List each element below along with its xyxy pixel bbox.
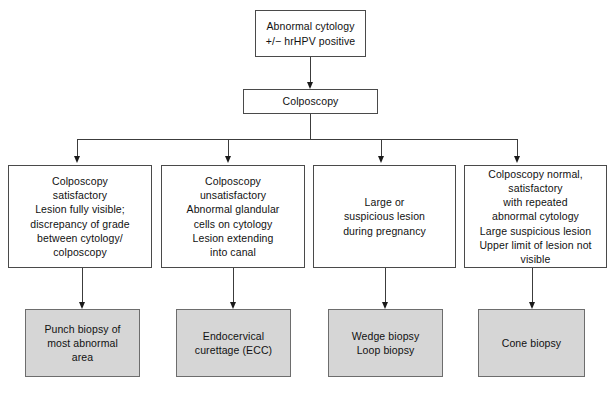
node-colposcopy-satisfactory-label: Colposcopy satisfactory Lesion fully vis…: [9, 174, 151, 259]
arrowhead-to-procedure-1: [79, 302, 85, 309]
flowchart-diagram: Abnormal cytology +/− hrHPV positive Col…: [0, 0, 610, 393]
connector-finding-4-to-procedure-4: [532, 268, 533, 304]
arrowhead-to-finding-2: [225, 156, 231, 163]
arrowhead-to-procedure-3: [382, 302, 388, 309]
node-large-suspicious-pregnancy: Large or suspicious lesion during pregna…: [313, 165, 456, 268]
connector-finding-2-to-procedure-2: [233, 268, 234, 304]
arrowhead-to-procedure-2: [230, 302, 236, 309]
arrowhead-to-finding-4: [514, 156, 520, 163]
node-colposcopy-normal-repeated-label: Colposcopy normal, satisfactory with rep…: [465, 167, 606, 266]
arrowhead-to-colposcopy: [307, 82, 313, 89]
connector-branch-bus: [77, 139, 517, 140]
node-colposcopy: Colposcopy: [243, 89, 378, 114]
node-colposcopy-unsatisfactory-label: Colposcopy unsatisfactory Abnormal gland…: [162, 174, 304, 259]
connector-finding-1-to-procedure-1: [82, 268, 83, 304]
node-cone-biopsy-label: Cone biopsy: [479, 336, 584, 350]
connector-start-to-colposcopy: [310, 57, 311, 84]
node-endocervical-curettage-label: Endocervical curettage (ECC): [177, 329, 290, 357]
node-cone-biopsy: Cone biopsy: [478, 309, 585, 377]
node-wedge-loop-biopsy: Wedge biopsy Loop biopsy: [328, 309, 443, 377]
node-colposcopy-normal-repeated: Colposcopy normal, satisfactory with rep…: [464, 165, 607, 268]
node-punch-biopsy-label: Punch biopsy of most abnormal area: [26, 322, 139, 365]
node-punch-biopsy: Punch biopsy of most abnormal area: [25, 309, 140, 377]
arrowhead-to-finding-3: [378, 156, 384, 163]
connector-finding-3-to-procedure-3: [385, 268, 386, 304]
node-endocervical-curettage: Endocervical curettage (ECC): [176, 309, 291, 377]
node-colposcopy-unsatisfactory: Colposcopy unsatisfactory Abnormal gland…: [161, 165, 305, 268]
node-large-suspicious-pregnancy-label: Large or suspicious lesion during pregna…: [314, 195, 455, 238]
node-abnormal-cytology-label: Abnormal cytology +/− hrHPV positive: [256, 19, 365, 47]
node-abnormal-cytology: Abnormal cytology +/− hrHPV positive: [255, 10, 366, 57]
connector-colposcopy-stem: [310, 114, 311, 139]
arrowhead-to-procedure-4: [529, 302, 535, 309]
arrowhead-to-finding-1: [74, 156, 80, 163]
node-wedge-loop-biopsy-label: Wedge biopsy Loop biopsy: [329, 329, 442, 357]
node-colposcopy-label: Colposcopy: [244, 94, 377, 108]
node-colposcopy-satisfactory: Colposcopy satisfactory Lesion fully vis…: [8, 165, 152, 268]
